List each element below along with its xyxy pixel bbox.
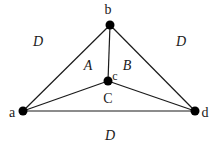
node-label-a: a [9,105,16,120]
region-label-d-bottom: D [104,128,115,143]
graph-diagram: a b c d A B C D D D [0,0,215,144]
region-label-a: A [83,58,93,73]
node-label-b: b [105,2,112,17]
node-b [106,21,115,30]
node-a [19,107,28,116]
region-label-b: B [123,58,132,73]
edge-a-c [23,81,108,111]
edge-c-d [108,81,195,111]
edge-b-c [108,25,110,81]
node-d [191,107,200,116]
region-label-d-upper-left: D [32,34,43,49]
region-label-d-upper-right: D [175,34,186,49]
region-label-c: C [103,91,112,106]
node-label-c: c [112,69,117,83]
node-label-d: d [202,105,209,120]
node-c [104,77,113,86]
